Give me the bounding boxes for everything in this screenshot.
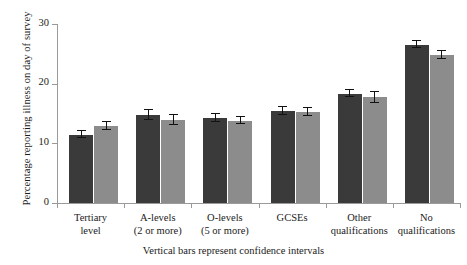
bar-group bbox=[136, 24, 185, 203]
error-bar bbox=[363, 92, 387, 203]
bar-group bbox=[271, 24, 320, 203]
error-bar bbox=[271, 107, 295, 203]
bar-group bbox=[69, 24, 118, 203]
y-tick-label: 30 bbox=[39, 17, 50, 28]
x-tick-mark bbox=[326, 203, 327, 208]
error-bar bbox=[203, 114, 227, 203]
error-bar bbox=[430, 51, 454, 203]
error-bar bbox=[405, 41, 429, 203]
error-bar bbox=[296, 108, 320, 203]
x-category-label: Noqualifications bbox=[378, 212, 467, 237]
x-tick-mark bbox=[393, 203, 394, 208]
error-bar bbox=[228, 117, 252, 203]
x-tick-mark bbox=[460, 203, 461, 208]
error-bar bbox=[136, 110, 160, 203]
y-axis-title: Percentage reporting illness on day of s… bbox=[21, 9, 32, 209]
error-bar bbox=[69, 131, 93, 203]
bar-group bbox=[203, 24, 252, 203]
y-tick-label: 10 bbox=[39, 136, 50, 147]
x-tick-mark bbox=[191, 203, 192, 208]
bar-group bbox=[338, 24, 387, 203]
plot-area: 0102030 bbox=[57, 24, 460, 203]
error-bar bbox=[338, 90, 362, 203]
y-axis-line bbox=[57, 24, 58, 203]
x-tick-mark bbox=[124, 203, 125, 208]
chart-caption: Vertical bars represent confidence inter… bbox=[0, 245, 467, 256]
y-tick-mark bbox=[52, 84, 57, 85]
x-tick-mark bbox=[259, 203, 260, 208]
error-bar bbox=[94, 122, 118, 203]
x-tick-mark bbox=[57, 203, 58, 208]
y-tick-mark bbox=[52, 143, 57, 144]
bar-group bbox=[405, 24, 454, 203]
y-tick-mark bbox=[52, 24, 57, 25]
bar-chart-figure: Percentage reporting illness on day of s… bbox=[0, 0, 467, 265]
y-tick-label: 0 bbox=[44, 196, 49, 207]
y-tick-label: 20 bbox=[39, 76, 50, 87]
error-bar bbox=[161, 115, 185, 203]
